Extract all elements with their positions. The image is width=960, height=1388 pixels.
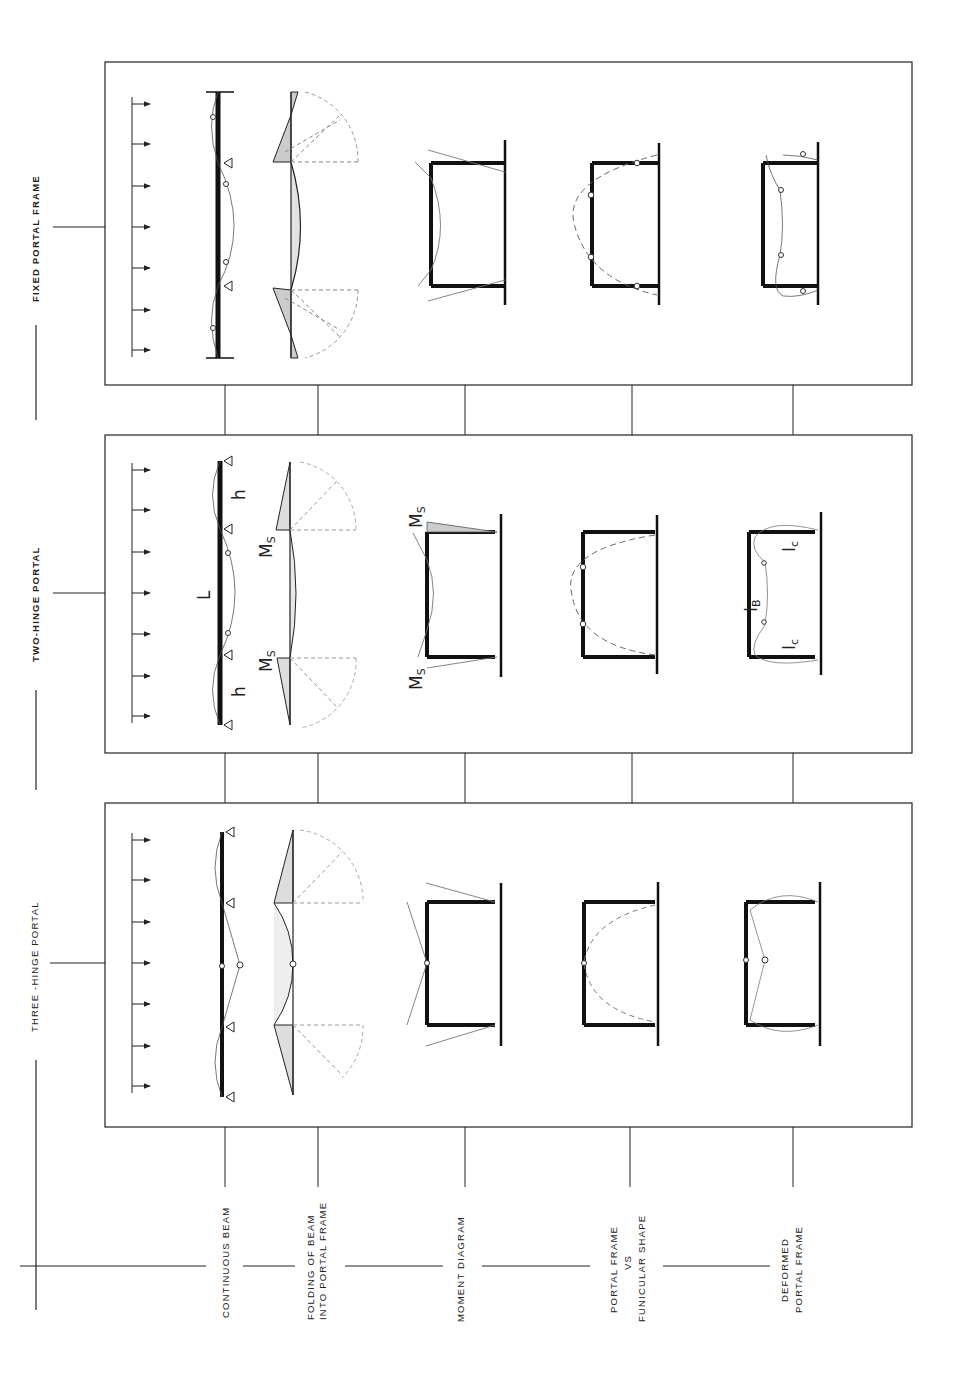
continuous-beam-fixed	[206, 92, 234, 358]
column-label-fixed: FIXED PORTAL FRAME	[30, 175, 41, 302]
row-label-funicular-1: PORTAL FRAME	[608, 1226, 619, 1313]
beam-inertia-label: IB	[741, 599, 763, 612]
row-label-continuous-beam: CONTINUOUS BEAM	[220, 1207, 231, 1318]
funicular-two-hinge	[571, 515, 657, 674]
height-label-h-top: h	[229, 489, 249, 500]
support-moment-label-top: MS	[256, 536, 278, 558]
portal-frame-comparison-diagram: FIXED PORTAL FRAME TWO-HINGE PORTAL THRE…	[0, 0, 960, 1388]
panel-two-hinge-portal: L h h MS MS MS MS	[105, 435, 912, 753]
row-connectors	[225, 385, 793, 1187]
moment-label-ms-bottom: MS	[406, 668, 428, 690]
folding-diagram-three-hinge	[274, 830, 363, 1095]
uniform-load-arrows	[132, 97, 150, 357]
column-label-two-hinge: TWO-HINGE PORTAL	[30, 546, 41, 662]
deformed-fixed	[763, 142, 818, 305]
left-axis	[20, 227, 770, 1310]
deformed-three-hinge	[744, 882, 821, 1046]
continuous-beam-two-hinge: L h h	[194, 456, 249, 730]
moment-label-ms-top: MS	[406, 506, 428, 528]
panel-three-hinge-portal	[105, 803, 912, 1127]
continuous-beam-three-hinge	[215, 827, 243, 1102]
row-label-folding-2: INTO PORTAL FRAME	[317, 1202, 328, 1320]
column-inertia-label-bottom: Ic	[779, 639, 801, 650]
deformed-two-hinge: IB Ic Ic	[741, 512, 821, 675]
uniform-load-arrows	[132, 833, 150, 1093]
row-labels: CONTINUOUS BEAM FOLDING OF BEAM INTO POR…	[220, 1202, 804, 1322]
uniform-load-arrows	[132, 463, 150, 723]
folding-diagram-two-hinge: MS MS	[256, 462, 356, 728]
moment-diagram-three-hinge	[407, 883, 501, 1046]
moment-diagram-fixed	[415, 140, 505, 305]
row-label-funicular-2: VS	[622, 1255, 633, 1270]
support-moment-label-bottom: MS	[256, 650, 278, 672]
span-label-L: L	[194, 590, 214, 600]
column-label-three-hinge: THREE -HINGE PORTAL	[29, 901, 40, 1032]
panel-fixed-portal	[105, 62, 912, 385]
moment-diagram-two-hinge: MS MS	[406, 506, 501, 690]
row-label-folding-1: FOLDING OF BEAM	[305, 1214, 316, 1320]
row-label-funicular-3: FUNICULAR SHAPE	[636, 1215, 647, 1322]
funicular-fixed	[573, 143, 660, 305]
height-label-h-bottom: h	[229, 686, 249, 697]
row-label-deformed-1: DEFORMED	[779, 1238, 790, 1302]
folding-diagram-fixed	[273, 92, 358, 358]
funicular-three-hinge	[582, 882, 659, 1046]
row-label-moment: MOMENT DIAGRAM	[455, 1216, 466, 1322]
row-label-deformed-2: PORTAL FRAME	[793, 1226, 804, 1313]
column-inertia-label-top: Ic	[779, 541, 801, 552]
